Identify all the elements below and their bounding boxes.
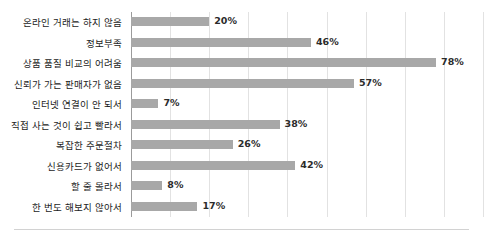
category-label: 직접 사는 것이 쉽고 빨라서	[0, 115, 126, 136]
bar-value-label: 7%	[163, 95, 179, 110]
bar-value-label: 26%	[238, 136, 261, 151]
bar	[131, 58, 436, 67]
bar-row: 20%	[131, 12, 483, 33]
bar-row: 42%	[131, 156, 483, 177]
figure-bottom-rule	[14, 229, 469, 230]
category-label: 복잡한 주문절차	[0, 135, 126, 156]
bar	[131, 99, 158, 108]
bar-value-label: 42%	[300, 157, 323, 172]
bar-row: 46%	[131, 33, 483, 54]
bar	[131, 140, 233, 149]
bar-row: 7%	[131, 94, 483, 115]
bar-value-label: 38%	[285, 116, 308, 131]
category-label: 상품 품질 비교의 어려움	[0, 53, 126, 74]
category-label: 신뢰가 가는 판매자가 없음	[0, 74, 126, 95]
bar	[131, 17, 209, 26]
bar-row: 26%	[131, 135, 483, 156]
category-label: 인터넷 연결이 안 되서	[0, 94, 126, 115]
category-label: 정보부족	[0, 33, 126, 54]
bar-row: 17%	[131, 197, 483, 218]
category-label: 온라인 거래는 하지 않음	[0, 12, 126, 33]
bar-value-label: 57%	[359, 75, 382, 90]
bar-row: 57%	[131, 74, 483, 95]
bar-value-label: 78%	[441, 54, 464, 69]
bar	[131, 120, 280, 129]
category-label: 한 번도 해보지 않아서	[0, 197, 126, 218]
category-axis-labels: 온라인 거래는 하지 않음정보부족상품 품질 비교의 어려움신뢰가 가는 판매자…	[0, 12, 126, 217]
bar-row: 78%	[131, 53, 483, 74]
bar-value-label: 17%	[202, 198, 225, 213]
bar-row: 8%	[131, 176, 483, 197]
category-label: 할 줄 몰라서	[0, 176, 126, 197]
bar	[131, 38, 311, 47]
bar	[131, 181, 162, 190]
bar-series: 20%46%78%57%7%38%26%42%8%17%	[131, 12, 483, 217]
bar	[131, 79, 354, 88]
bar-value-label: 46%	[316, 34, 339, 49]
bar-value-label: 20%	[214, 13, 237, 28]
bar-value-label: 8%	[167, 177, 183, 192]
bar	[131, 202, 197, 211]
bar-row: 38%	[131, 115, 483, 136]
bar	[131, 161, 295, 170]
category-label: 신용카드가 없어서	[0, 156, 126, 177]
plot-area: 20%46%78%57%7%38%26%42%8%17%	[131, 12, 483, 217]
